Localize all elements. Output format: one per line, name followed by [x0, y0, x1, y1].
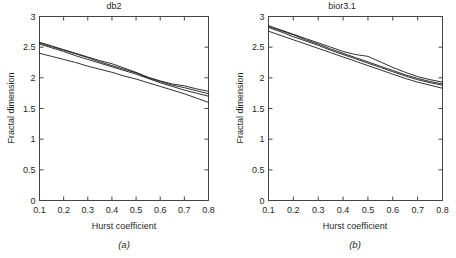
- y-tick-label: 3: [259, 12, 264, 22]
- chart-svg-b: 00.511.522.53 0.10.20.30.40.50.60.70.8 F…: [228, 0, 456, 258]
- data-curves-b: [269, 26, 443, 89]
- y-tick-label: 0.5: [252, 165, 265, 175]
- x-tick-label: 0.1: [262, 205, 275, 215]
- y-tick-label: 1.5: [252, 104, 265, 114]
- y-axis-title-a: Fractal dimension: [6, 72, 16, 143]
- x-tick-label: 0.3: [82, 205, 95, 215]
- y-tick-label: 0.5: [23, 165, 36, 175]
- x-tick-label: 0.8: [436, 205, 449, 215]
- x-axis-title-b: Hurst coefficient: [323, 221, 388, 231]
- y-tick-label: 3: [30, 12, 35, 22]
- y-ticks-b: [269, 17, 443, 201]
- y-tick-label: 2.5: [23, 42, 36, 52]
- panel-caption-a: (a): [118, 239, 130, 250]
- axes-a: [40, 17, 209, 201]
- y-tick-label: 2.5: [252, 42, 265, 52]
- plot-canvas-a: 00.511.522.53 0.10.20.30.40.50.60.70.8 F…: [0, 0, 228, 258]
- x-tick-label: 0.8: [202, 205, 215, 215]
- x-tick-label: 0.5: [130, 205, 143, 215]
- data-curves-a: [40, 42, 209, 102]
- plot-panel-a: db2 00.511.522.53 0.10.20.30.40.50.60.70…: [0, 0, 228, 258]
- plot-canvas-b: 00.511.522.53 0.10.20.30.40.50.60.70.8 F…: [228, 0, 456, 258]
- x-tick-label: 0.4: [337, 205, 350, 215]
- x-axis-title-a: Hurst coefficient: [92, 221, 157, 231]
- x-tick-label: 0.6: [387, 205, 400, 215]
- axes-frame-b: [269, 17, 443, 201]
- y-tick-labels-a: 00.511.522.53: [23, 12, 36, 206]
- axes-b: [269, 17, 443, 201]
- x-tick-label: 0.4: [106, 205, 119, 215]
- y-axis-title-b: Fractal dimension: [235, 72, 245, 143]
- chart-svg-a: 00.511.522.53 0.10.20.30.40.50.60.70.8 F…: [0, 0, 228, 258]
- data-curve-curve-2: [269, 26, 443, 84]
- x-ticks-a: [40, 17, 209, 201]
- y-ticks-a: [40, 17, 209, 201]
- x-ticks-b: [269, 17, 443, 201]
- data-curve-curve-4: [40, 53, 209, 102]
- x-tick-label: 0.3: [312, 205, 325, 215]
- x-tick-label: 0.2: [287, 205, 300, 215]
- x-tick-label: 0.6: [154, 205, 167, 215]
- data-curve-curve-1: [40, 42, 209, 91]
- data-curve-curve-1: [269, 26, 443, 82]
- x-tick-labels-a: 0.10.20.30.40.50.60.70.8: [33, 205, 215, 215]
- figure-root: db2 00.511.522.53 0.10.20.30.40.50.60.70…: [0, 0, 456, 258]
- panel-caption-b: (b): [349, 239, 361, 250]
- x-tick-labels-b: 0.10.20.30.40.50.60.70.8: [262, 205, 449, 215]
- y-tick-label: 1: [30, 134, 35, 144]
- x-tick-label: 0.1: [33, 205, 46, 215]
- x-tick-label: 0.5: [362, 205, 375, 215]
- x-tick-label: 0.7: [178, 205, 191, 215]
- y-tick-label: 2: [30, 73, 35, 83]
- plot-panel-b: bior3.1 00.511.522.53 0.10.20.30.40.50.6…: [228, 0, 456, 258]
- y-tick-label: 1: [259, 134, 264, 144]
- y-tick-label: 1.5: [23, 104, 36, 114]
- data-curve-curve-3: [40, 44, 209, 96]
- x-tick-label: 0.7: [411, 205, 424, 215]
- y-tick-labels-b: 00.511.522.53: [252, 12, 265, 206]
- y-tick-label: 2: [259, 73, 264, 83]
- axes-frame-a: [40, 17, 209, 201]
- x-tick-label: 0.2: [57, 205, 70, 215]
